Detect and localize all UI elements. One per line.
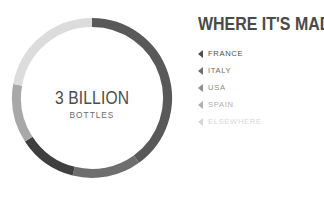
- legend-item-italy[interactable]: ITALY: [198, 63, 318, 78]
- infographic-root: 3 BILLION BOTTLES WHERE IT'S MADE FRANCE…: [0, 0, 324, 199]
- donut-segment-usa[interactable]: [29, 139, 74, 171]
- legend-panel: WHERE IT'S MADE FRANCE ITALY USA SPAIN E…: [198, 13, 318, 131]
- triangle-left-icon: [198, 118, 203, 126]
- donut-segment-spain[interactable]: [16, 85, 28, 139]
- legend-item-label: ELSEWHERE: [208, 117, 262, 126]
- donut-svg: [11, 10, 173, 186]
- legend-item-label: SPAIN: [208, 100, 234, 109]
- legend-item-label: FRANCE: [208, 49, 243, 58]
- triangle-left-icon: [198, 50, 203, 58]
- legend-list: FRANCE ITALY USA SPAIN ELSEWHERE: [198, 46, 318, 129]
- triangle-left-icon: [198, 84, 203, 92]
- triangle-left-icon: [198, 67, 203, 75]
- legend-item-france[interactable]: FRANCE: [198, 46, 318, 61]
- legend-item-label: ITALY: [208, 66, 231, 75]
- donut-segment-italy[interactable]: [74, 159, 137, 173]
- legend-item-usa[interactable]: USA: [198, 80, 318, 95]
- donut-segment-france[interactable]: [92, 22, 168, 159]
- legend-title: WHERE IT'S MADE: [198, 13, 299, 34]
- legend-item-label: USA: [208, 83, 226, 92]
- triangle-left-icon: [198, 101, 203, 109]
- legend-item-elsewhere[interactable]: ELSEWHERE: [198, 114, 318, 129]
- donut-segment-elsewhere[interactable]: [18, 22, 92, 84]
- legend-item-spain[interactable]: SPAIN: [198, 97, 318, 112]
- donut-chart: 3 BILLION BOTTLES: [11, 10, 173, 186]
